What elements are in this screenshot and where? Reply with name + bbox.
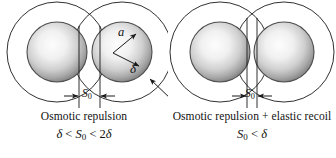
formula-gap-subscript: 0 <box>243 132 248 142</box>
formula-operator-1: < <box>65 127 72 141</box>
formula-operator-1: < <box>251 127 258 141</box>
core-sphere-left <box>27 22 87 82</box>
core-sphere-right <box>254 22 314 82</box>
shell-thickness-label: δ <box>130 61 136 77</box>
radius-label: a <box>118 25 124 40</box>
formula-delta-left: δ <box>56 127 62 141</box>
right-caption-title: Osmotic repulsion + elastic recoil <box>168 110 336 122</box>
right-caption-formula: S0 < δ <box>168 128 336 142</box>
left-caption-title: Osmotic repulsion <box>0 110 168 122</box>
formula-delta-right: δ <box>106 127 112 141</box>
separation-label-subscript: 0 <box>88 92 92 101</box>
panel-osmotic-repulsion-elastic-recoil: S0 Osmotic repulsion + elastic recoil S0… <box>168 0 336 158</box>
formula-gap-subscript: 0 <box>82 132 87 142</box>
osmotic-repulsion-figure: a δ S0 Osmotic repulsion δ < S0 < 2δ <box>0 0 336 158</box>
separation-label: S0 <box>245 87 255 101</box>
formula-operator-2: < <box>89 127 96 141</box>
outer-shell-pointer-arrow <box>150 79 168 100</box>
left-caption-formula: δ < S0 < 2δ <box>0 128 168 142</box>
separation-label: S0 <box>82 87 92 101</box>
panel-osmotic-repulsion: a δ S0 Osmotic repulsion δ < S0 < 2δ <box>0 0 168 158</box>
core-sphere-left <box>190 22 250 82</box>
separation-label-subscript: 0 <box>251 92 255 101</box>
formula-delta-right: δ <box>261 127 267 141</box>
